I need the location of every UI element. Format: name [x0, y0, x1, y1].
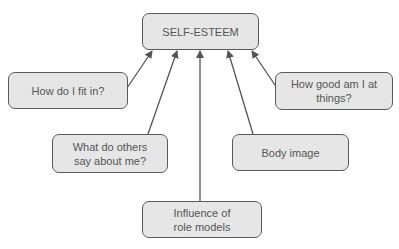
- node-body-image: Body image: [232, 134, 349, 171]
- node-label: How do I fit in?: [32, 84, 105, 98]
- self-esteem-diagram: SELF-ESTEEM How do I fit in? How good am…: [0, 0, 399, 249]
- node-label: What do others say about me?: [67, 140, 153, 168]
- node-good-at-things: How good am I at things?: [275, 72, 393, 110]
- node-others-say: What do others say about me?: [52, 134, 168, 173]
- node-fit-in: How do I fit in?: [8, 72, 128, 109]
- node-label: Body image: [261, 146, 319, 160]
- arrow-others-say: [148, 51, 177, 134]
- node-label: Influence of role models: [165, 206, 239, 234]
- node-self-esteem: SELF-ESTEEM: [142, 13, 259, 50]
- node-label: How good am I at things?: [290, 77, 378, 105]
- node-role-models: Influence of role models: [142, 201, 262, 238]
- arrow-body-image: [228, 51, 253, 134]
- node-label: SELF-ESTEEM: [162, 25, 238, 39]
- arrow-good-at-things: [252, 51, 277, 88]
- arrow-fit-in: [127, 51, 152, 88]
